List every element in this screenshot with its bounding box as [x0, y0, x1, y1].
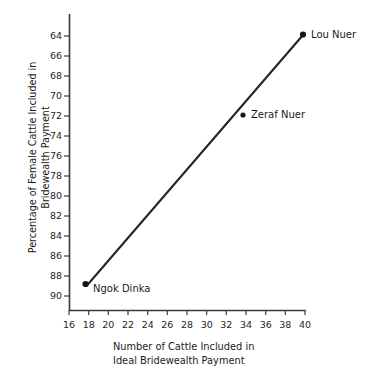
x-axis-title-line-2: Ideal Bridewealth Payment: [69, 354, 305, 368]
x-tick-label: 26: [156, 320, 178, 330]
x-tick-label: 22: [117, 320, 139, 330]
y-axis-title-line-2: Bridewealth Payment: [39, 40, 52, 276]
annotation-zeraf-nuer: Zeraf Nuer: [251, 109, 305, 120]
annotation-lou-nuer: Lou Nuer: [311, 29, 356, 40]
x-axis-title-line-1: Number of Cattle Included in: [69, 340, 305, 354]
data-point-zeraf-nuer: [240, 112, 245, 117]
x-tick-label: 38: [274, 320, 296, 330]
y-tick-label: 90: [40, 291, 62, 301]
y-axis-title: Percentage of Female Cattle Included in …: [27, 40, 52, 276]
series-segment: [87, 35, 304, 286]
annotation-ngok-dinka: Ngok Dinka: [93, 283, 150, 294]
y-tick-marks: [64, 36, 69, 296]
x-axis-title: Number of Cattle Included in Ideal Bride…: [69, 340, 305, 367]
x-tick-label: 40: [294, 320, 316, 330]
x-tick-label: 28: [176, 320, 198, 330]
data-point-lou-nuer: [300, 31, 306, 37]
y-axis-title-line-1: Percentage of Female Cattle Included in: [27, 40, 40, 276]
x-tick-label: 16: [58, 320, 80, 330]
x-tick-label: 20: [97, 320, 119, 330]
data-point-ngok-dinka: [82, 281, 88, 287]
x-tick-label: 32: [215, 320, 237, 330]
x-tick-label: 34: [235, 320, 257, 330]
chart-figure: 64 66 68 70 72 74 76 78 80 82 84 86 88 9…: [0, 0, 371, 384]
